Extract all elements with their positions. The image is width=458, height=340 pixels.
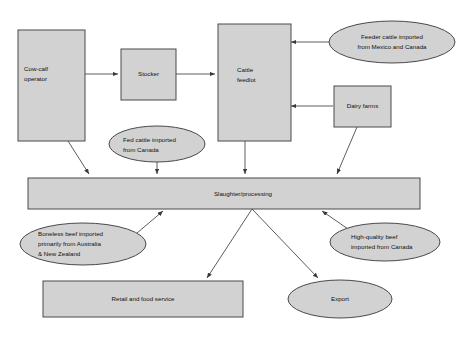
flow-diagram-svg: Cow-calf operator Stocker Cattle feedlot…: [0, 0, 458, 340]
node-boneless-beef-imported[interactable]: Boneless beef imported primarily from Au…: [20, 223, 146, 265]
edge-dairyfarms-to-slaughter: [337, 127, 357, 174]
node-retail-and-food-service[interactable]: Retail and food service: [43, 281, 243, 317]
node-dairy-farms[interactable]: Dairy farms: [334, 86, 391, 127]
feeder-cattle-imported-label-line-2: from Mexico and Canada: [357, 43, 427, 50]
high-quality-beef-imported-label-line-2: imported from Canada: [351, 243, 413, 250]
cow-calf-operator-box[interactable]: [18, 30, 85, 141]
export-label: Export: [331, 295, 349, 302]
cow-calf-operator-label-line-1: Cow-calf: [24, 65, 48, 72]
boneless-beef-imported-label-line-2: primarily from Australia: [38, 240, 101, 247]
edge-slaughter-to-retail: [207, 209, 252, 278]
node-high-quality-beef-imported[interactable]: High-quality beef imported from Canada: [330, 223, 440, 261]
dairy-farms-label: Dairy farms: [347, 102, 379, 109]
boneless-beef-imported-label-line-3: & New Zealand: [38, 250, 81, 257]
edge-highqualitybeef-to-slaughter: [322, 211, 348, 229]
node-export[interactable]: Export: [288, 280, 392, 318]
boneless-beef-imported-label-line-1: Boneless beef imported: [38, 230, 104, 237]
stocker-label: Stocker: [138, 70, 159, 77]
node-fed-cattle-imported[interactable]: Fed cattle imported from Canada: [109, 126, 205, 162]
node-cattle-feedlot[interactable]: Cattle feedlot: [218, 24, 291, 141]
cattle-feedlot-label-line-1: Cattle: [237, 66, 254, 73]
retail-and-food-service-label: Retail and food service: [112, 295, 176, 302]
edge-bonelessbeef-to-slaughter: [137, 211, 163, 233]
node-slaughter-processing[interactable]: Slaughter/processing: [28, 178, 420, 209]
fed-cattle-imported-ellipse[interactable]: [109, 126, 205, 162]
cow-calf-operator-label-line-2: operator: [24, 75, 47, 82]
edge-cowcalf-to-slaughter: [68, 141, 89, 174]
fed-cattle-imported-label-line-2: from Canada: [123, 146, 159, 153]
slaughter-processing-label: Slaughter/processing: [214, 190, 273, 197]
edge-slaughter-to-export: [252, 209, 318, 278]
fed-cattle-imported-label-line-1: Fed cattle imported: [123, 136, 177, 143]
node-feeder-cattle-imported[interactable]: Feeder cattle imported from Mexico and C…: [329, 21, 455, 63]
node-cow-calf-operator[interactable]: Cow-calf operator: [18, 30, 85, 141]
cattle-feedlot-label-line-2: feedlot: [237, 76, 256, 83]
feeder-cattle-imported-label-line-1: Feeder cattle imported: [361, 33, 423, 40]
high-quality-beef-imported-label-line-1: High-quality beef: [351, 233, 398, 240]
flow-diagram-canvas: Cow-calf operator Stocker Cattle feedlot…: [0, 0, 458, 340]
node-stocker[interactable]: Stocker: [121, 49, 176, 100]
